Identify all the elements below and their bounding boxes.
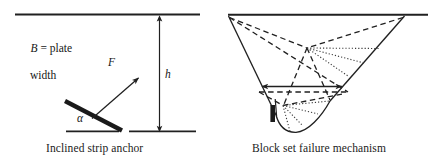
plate-width-label: B = plate width [19, 28, 72, 109]
dashed-slip-line-icon [230, 18, 404, 106]
force-label: F [108, 56, 115, 70]
plate-width-symbol: B [31, 42, 38, 54]
figure-root: B = plate width F h α Inclined strip anc… [0, 0, 447, 165]
plate-width-second-line: width [19, 69, 72, 83]
anchor-plate-icon [270, 105, 275, 122]
right-panel-caption: Block set failure mechanism [252, 142, 386, 154]
angle-label: α [77, 112, 83, 126]
failure-block-left-edge [229, 16, 277, 115]
left-panel-caption: Inclined strip anchor [46, 142, 143, 154]
inclined-plate-icon [65, 101, 122, 131]
plate-width-equals: = plate [38, 42, 73, 54]
right-panel-graphics [228, 15, 428, 133]
depth-label: h [165, 68, 171, 82]
force-arrow-icon [92, 78, 139, 119]
